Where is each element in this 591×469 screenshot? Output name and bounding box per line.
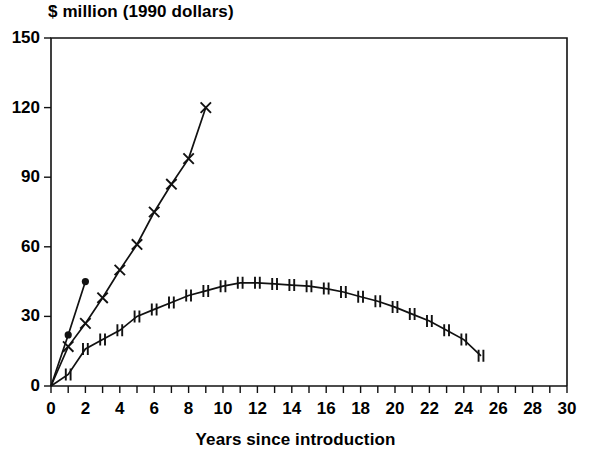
plot-canvas [0,0,591,469]
data-series-group [51,102,483,386]
axis-ticks [44,38,567,393]
chart-figure: $ million (1990 dollars) Years since int… [0,0,591,469]
axis-frame [51,38,567,386]
series-rising-cross-series [51,102,211,386]
series-peaked-double-tick-series [51,277,483,386]
